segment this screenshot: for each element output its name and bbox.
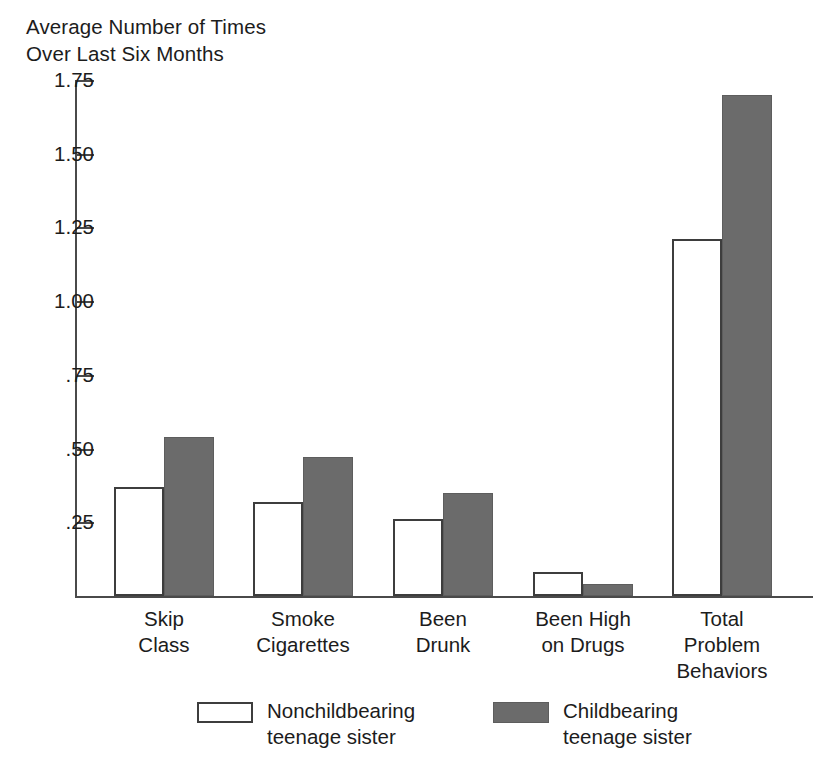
y-axis-tick-label: 1.25 [28, 217, 94, 238]
x-axis-category-label: Been High on Drugs [503, 606, 663, 658]
chart-legend: Nonchildbearing teenage sisterChildbeari… [0, 698, 828, 768]
legend-label: Childbearing teenage sister [563, 698, 692, 750]
x-axis-category-label: Total Problem Behaviors [642, 606, 802, 684]
y-axis-tick-label: .50 [28, 439, 94, 460]
bar-chart: Average Number of Times Over Last Six Mo… [0, 0, 828, 771]
bar [164, 437, 214, 596]
x-axis-baseline [75, 596, 813, 598]
bar [303, 457, 353, 596]
legend-swatch-icon [197, 702, 253, 723]
x-axis-category-label: Smoke Cigarettes [223, 606, 383, 658]
bar [443, 493, 493, 596]
y-axis-tick-label: 1.00 [28, 291, 94, 312]
legend-item: Nonchildbearing teenage sister [197, 698, 415, 750]
x-axis-category-label: Been Drunk [363, 606, 523, 658]
legend-label: Nonchildbearing teenage sister [267, 698, 415, 750]
bar [114, 487, 164, 596]
y-axis-tick-label: 1.50 [28, 144, 94, 165]
bar [672, 239, 722, 596]
legend-swatch-icon [493, 702, 549, 723]
bar [533, 572, 583, 596]
y-axis-tick-label: 1.75 [28, 70, 94, 91]
x-axis-category-label: Skip Class [84, 606, 244, 658]
bar [253, 502, 303, 596]
bar [722, 95, 772, 596]
y-axis-tick-label: .75 [28, 365, 94, 386]
y-axis-tick-label: .25 [28, 512, 94, 533]
bar [583, 584, 633, 596]
plot-area: 1.751.501.251.00.75.50.25 Skip ClassSmok… [0, 0, 828, 600]
legend-item: Childbearing teenage sister [493, 698, 692, 750]
bar [393, 519, 443, 596]
